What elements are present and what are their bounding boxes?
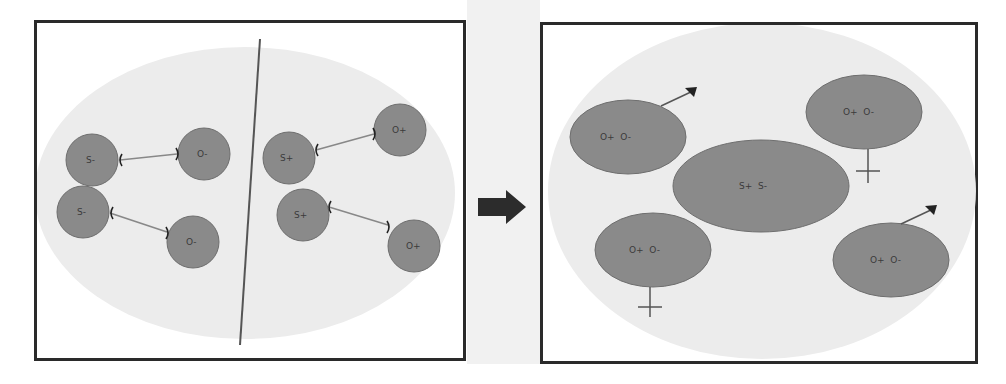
fused-cell-s: S+ S-: [673, 140, 849, 232]
diagram-before: S- O- S- O- S+ O+ S+ O+: [37, 23, 469, 364]
svg-text:O+ O-: O+ O-: [629, 245, 660, 255]
cell-s-minus-1: S-: [66, 134, 118, 186]
separator-band: [467, 0, 540, 364]
svg-text:O-: O-: [186, 237, 197, 247]
panel-after: O+ O- O+ O- S+ S- O+ O-: [540, 22, 978, 364]
cell-s-plus-1: S+: [263, 132, 315, 184]
svg-text:O-: O-: [197, 149, 208, 159]
svg-text:O+ O-: O+ O-: [870, 255, 901, 265]
cell-s-plus-2: S+: [277, 189, 329, 241]
svg-text:O+ O-: O+ O-: [600, 132, 631, 142]
cell-o-plus-2: O+: [388, 220, 440, 272]
cell-s-minus-2: S-: [57, 186, 109, 238]
svg-text:O+: O+: [392, 125, 407, 135]
right-arrow-icon: [474, 188, 534, 228]
diagram-after: O+ O- O+ O- S+ S- O+ O-: [543, 25, 981, 367]
svg-text:S+ S-: S+ S-: [739, 181, 767, 191]
panel-before: S- O- S- O- S+ O+ S+ O+: [34, 20, 466, 361]
cell-o-minus-1: O-: [178, 128, 230, 180]
svg-text:S-: S-: [86, 155, 95, 165]
svg-text:S+: S+: [294, 210, 307, 220]
cell-o-plus-1: O+: [374, 104, 426, 156]
cell-o-minus-2: O-: [167, 216, 219, 268]
svg-text:O+: O+: [406, 241, 421, 251]
svg-text:S+: S+: [280, 153, 293, 163]
svg-text:S-: S-: [77, 207, 86, 217]
svg-text:O+ O-: O+ O-: [843, 107, 874, 117]
